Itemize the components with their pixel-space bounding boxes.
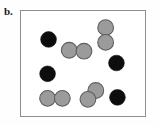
- black-particle: [41, 32, 57, 48]
- figure-panel: b.: [0, 0, 159, 125]
- plot-box: [20, 10, 146, 117]
- particles-layer: [21, 11, 145, 116]
- gray-particle: [98, 35, 114, 51]
- gray-particle: [40, 90, 56, 106]
- black-particle: [109, 55, 125, 71]
- panel-label: b.: [4, 5, 13, 17]
- gray-particle: [76, 43, 92, 59]
- gray-particle: [54, 90, 70, 106]
- gray-particle: [61, 42, 77, 58]
- gray-particle: [98, 20, 114, 36]
- black-particle: [110, 90, 126, 106]
- black-particle: [40, 66, 56, 82]
- gray-particle: [80, 91, 96, 107]
